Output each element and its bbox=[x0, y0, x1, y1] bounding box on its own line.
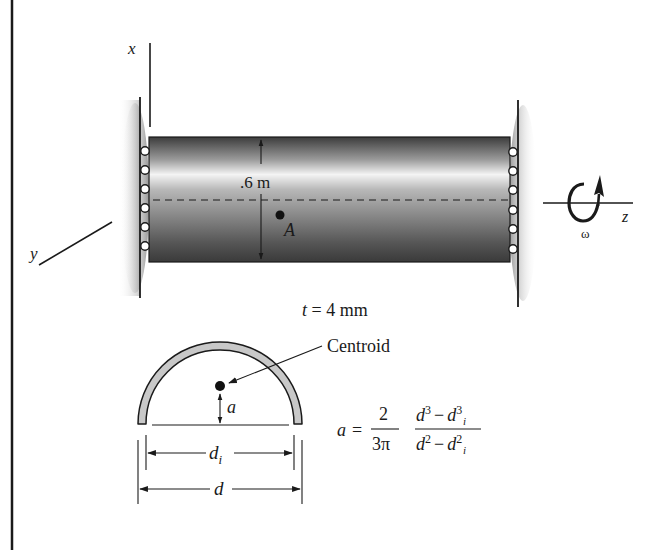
svg-text:2: 2 bbox=[379, 404, 388, 424]
cylinder-diagram: x y .6 m bbox=[0, 0, 665, 550]
centroid-formula: a = 2 3π d3−d3 i d2−d2 i bbox=[337, 403, 481, 456]
svg-text:3π: 3π bbox=[372, 434, 390, 454]
formula-denominator: d2−d2 bbox=[416, 432, 462, 454]
svg-text:i: i bbox=[463, 444, 466, 456]
outer-diameter-dimension: d bbox=[138, 440, 302, 504]
centroid-label: Centroid bbox=[327, 336, 390, 356]
cylinder-body bbox=[149, 137, 510, 262]
right-wall-support bbox=[509, 100, 537, 307]
a-dimension: a bbox=[220, 394, 236, 423]
formula-numerator: d3−d3 bbox=[416, 403, 462, 425]
di-label: di bbox=[209, 442, 223, 467]
svg-text:a: a bbox=[337, 420, 346, 440]
omega-label: ω bbox=[581, 226, 590, 241]
inner-diameter-dimension: di bbox=[146, 435, 294, 470]
thickness-label: t = 4 mm bbox=[302, 300, 368, 320]
y-axis: y bbox=[28, 222, 112, 265]
x-axis-label: x bbox=[127, 39, 136, 58]
diameter-label: .6 m bbox=[240, 173, 270, 192]
point-a-label: A bbox=[283, 220, 296, 240]
rotation-omega-icon: ω bbox=[569, 175, 604, 241]
d-label: d bbox=[214, 478, 224, 499]
svg-text:i: i bbox=[463, 415, 466, 427]
z-axis-label: z bbox=[621, 208, 629, 225]
thickness-value: = 4 mm bbox=[307, 300, 368, 320]
a-label: a bbox=[227, 397, 236, 417]
left-wall-support bbox=[118, 97, 149, 298]
svg-text:=: = bbox=[352, 420, 362, 440]
y-axis-label: y bbox=[28, 244, 38, 263]
